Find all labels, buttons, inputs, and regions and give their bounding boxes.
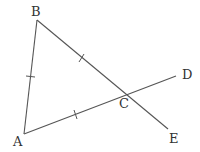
label-c: C bbox=[119, 96, 129, 111]
tick-mark-ab bbox=[26, 76, 35, 77]
label-a: A bbox=[12, 134, 23, 149]
segment-ad bbox=[24, 76, 176, 134]
label-d: D bbox=[182, 67, 192, 82]
segment-be bbox=[37, 20, 168, 129]
label-e: E bbox=[169, 131, 179, 146]
triangle-diagram: B A C D E bbox=[0, 0, 200, 152]
label-b: B bbox=[31, 4, 41, 19]
